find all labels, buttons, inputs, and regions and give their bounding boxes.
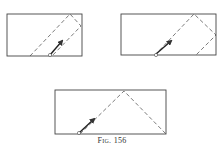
arrow-icon [156, 41, 171, 54]
start-point-circle [77, 131, 80, 134]
figure-156-diagram [0, 0, 224, 154]
dashed-path [80, 91, 166, 134]
outer-rectangle [55, 90, 166, 134]
start-point-circle [48, 53, 51, 56]
arrow-icon [79, 119, 94, 133]
panel-3 [55, 90, 166, 135]
dashed-path [30, 14, 81, 56]
figure-caption: Fig. 156 [0, 136, 224, 145]
dashed-path [155, 14, 216, 55]
panel-2 [121, 14, 216, 57]
start-point-circle [154, 53, 157, 56]
panel-1 [7, 14, 82, 57]
outer-rectangle [7, 14, 82, 56]
